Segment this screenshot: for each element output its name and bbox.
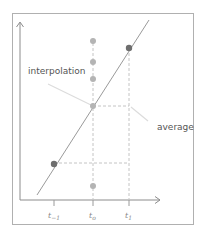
sample-point: [90, 38, 96, 44]
interpolation-leader: [48, 84, 91, 105]
x-ticks: [54, 200, 129, 206]
y-axis: [17, 22, 24, 200]
sample-point: [90, 59, 96, 65]
data-point-t-minus-1: [51, 161, 57, 167]
interpolation-label: interpolation: [28, 66, 85, 76]
interpolated-point: [90, 103, 96, 109]
x-axis: [20, 197, 160, 204]
sample-point: [90, 76, 96, 82]
tick-label-t-1: t1: [125, 211, 132, 221]
diagram-frame: [13, 14, 194, 225]
data-point-t-1: [126, 45, 132, 51]
tick-label-t-minus-1: t−1: [48, 211, 60, 221]
tick-label-t-0: to: [89, 211, 96, 221]
average-leader: [131, 107, 148, 121]
interpolation-diagram: interpolation average t−1 to t1: [0, 0, 203, 234]
average-label: average: [157, 122, 194, 132]
leader-lines: [48, 84, 148, 121]
sample-point: [90, 183, 96, 189]
